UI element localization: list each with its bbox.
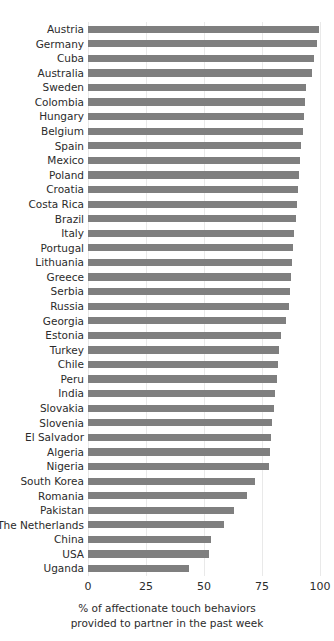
- x-axis-title-line: provided to partner in the past week: [0, 616, 334, 631]
- y-axis-tick-label: Germany: [36, 37, 84, 52]
- plot-area: [88, 22, 320, 576]
- y-axis-tick-label: USA: [62, 547, 84, 562]
- bar: [88, 405, 274, 412]
- x-axis-tick-label: 75: [255, 580, 269, 593]
- x-axis-tick-labels: 0255075100: [88, 580, 320, 596]
- x-axis-tick-label: 0: [85, 580, 92, 593]
- bar-row: [88, 139, 320, 154]
- gridline-100: [320, 22, 321, 576]
- bar: [88, 259, 292, 266]
- bar-row: [88, 372, 320, 387]
- bar: [88, 478, 255, 485]
- y-axis-tick-label: Algeria: [47, 445, 84, 460]
- bar: [88, 98, 305, 105]
- bar-rows: [88, 22, 320, 576]
- bar-row: [88, 255, 320, 270]
- x-axis-tick-label: 50: [197, 580, 211, 593]
- y-axis-tick-label: Uganda: [43, 561, 84, 576]
- y-axis-tick-label: Hungary: [39, 109, 84, 124]
- bar: [88, 142, 301, 149]
- bar: [88, 463, 269, 470]
- y-axis-tick-label: Slovenia: [39, 416, 84, 431]
- bar-row: [88, 386, 320, 401]
- bar-row: [88, 241, 320, 256]
- y-axis-tick-label: Romania: [38, 489, 84, 504]
- y-axis-tick-label: Belgium: [41, 124, 84, 139]
- bar-row: [88, 489, 320, 504]
- bar: [88, 521, 224, 528]
- y-axis-tick-label: South Korea: [20, 474, 84, 489]
- bar-row: [88, 182, 320, 197]
- bar-row: [88, 445, 320, 460]
- bar-row: [88, 168, 320, 183]
- bar-row: [88, 314, 320, 329]
- y-axis-tick-label: Georgia: [43, 314, 84, 329]
- bar: [88, 171, 299, 178]
- bar: [88, 26, 319, 33]
- bar-row: [88, 95, 320, 110]
- bar: [88, 113, 304, 120]
- y-axis-tick-label: Cuba: [57, 51, 84, 66]
- bar: [88, 492, 247, 499]
- y-axis-tick-label: Pakistan: [40, 503, 84, 518]
- bar-row: [88, 474, 320, 489]
- bar: [88, 507, 234, 514]
- bar: [88, 375, 277, 382]
- bar-row: [88, 459, 320, 474]
- bar-row: [88, 357, 320, 372]
- bar: [88, 40, 317, 47]
- bar-row: [88, 343, 320, 358]
- bar: [88, 186, 298, 193]
- bar: [88, 157, 300, 164]
- y-axis-tick-label: Turkey: [50, 343, 84, 358]
- y-axis-tick-label: Greece: [47, 270, 84, 285]
- bar: [88, 332, 281, 339]
- bar-row: [88, 226, 320, 241]
- y-axis-tick-label: Estonia: [45, 328, 84, 343]
- bar: [88, 536, 211, 543]
- bar: [88, 230, 294, 237]
- bar-row: [88, 37, 320, 52]
- bar: [88, 273, 291, 280]
- bar: [88, 565, 189, 572]
- bar: [88, 303, 289, 310]
- y-axis-tick-label: Spain: [55, 139, 84, 154]
- y-axis-tick-label: Poland: [49, 168, 84, 183]
- bar-row: [88, 80, 320, 95]
- y-axis-tick-label: Italy: [61, 226, 84, 241]
- bar-row: [88, 561, 320, 576]
- y-axis-tick-label: Mexico: [47, 153, 84, 168]
- bar-row: [88, 109, 320, 124]
- x-axis-tick-label: 25: [139, 580, 153, 593]
- y-axis-tick-label: The Netherlands: [0, 518, 84, 533]
- bar: [88, 55, 314, 62]
- bar-row: [88, 299, 320, 314]
- bar-row: [88, 197, 320, 212]
- bar-row: [88, 328, 320, 343]
- bar-row: [88, 22, 320, 37]
- bar-row: [88, 547, 320, 562]
- x-axis-tick-label: 100: [310, 580, 331, 593]
- bar-row: [88, 430, 320, 445]
- bar-row: [88, 212, 320, 227]
- bar-row: [88, 284, 320, 299]
- bar: [88, 244, 293, 251]
- y-axis-tick-label: Costa Rica: [28, 197, 84, 212]
- y-axis-tick-label: Brazil: [55, 212, 84, 227]
- bar: [88, 346, 279, 353]
- y-axis-tick-label: El Salvador: [25, 430, 84, 445]
- y-axis-tick-label: India: [58, 386, 84, 401]
- bar-row: [88, 66, 320, 81]
- bar-row: [88, 401, 320, 416]
- bar-row: [88, 503, 320, 518]
- bar: [88, 288, 290, 295]
- y-axis-tick-label: Lithuania: [35, 255, 84, 270]
- y-axis-tick-label: Australia: [38, 66, 84, 81]
- y-axis-tick-label: Colombia: [35, 95, 84, 110]
- y-axis-tick-label: Serbia: [51, 284, 84, 299]
- x-axis-title-line: % of affectionate touch behaviors: [0, 601, 334, 616]
- y-axis-tick-label: Nigeria: [46, 459, 84, 474]
- bar-row: [88, 416, 320, 431]
- bar-row: [88, 270, 320, 285]
- bar: [88, 390, 275, 397]
